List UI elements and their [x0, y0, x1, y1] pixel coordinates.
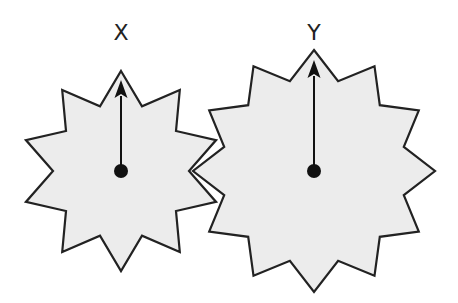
gear-diagram: X Y — [0, 0, 458, 303]
gear-y-label: Y — [306, 20, 321, 45]
gear-y-pivot-dot — [307, 164, 321, 178]
gear-y: Y — [193, 20, 435, 292]
gear-x-label: X — [113, 20, 128, 45]
gear-x-pivot-dot — [114, 164, 128, 178]
gear-x: X — [26, 20, 216, 271]
